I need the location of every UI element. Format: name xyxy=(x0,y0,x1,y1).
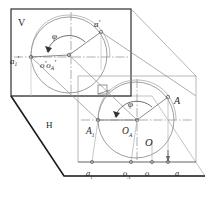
label-point-OA: OA xyxy=(122,126,133,138)
label-point-O: O xyxy=(145,137,153,148)
ray-o-prime-to-O xyxy=(69,55,137,120)
v-phi-arrowhead xyxy=(45,46,52,53)
label-ground-a1: a1 xyxy=(86,168,93,180)
label-point-A1: A1 xyxy=(85,126,95,138)
ray-frame-corner xyxy=(131,9,196,76)
label-ground-o: o xyxy=(145,168,149,178)
h-phi-label: φ xyxy=(128,99,133,109)
h-phi-arc xyxy=(115,101,152,117)
geometry-diagram: V H φ φ a′ a1′ o′oA′ A A1 OA O a1 oA o a xyxy=(0,0,213,199)
label-point-A: A xyxy=(173,95,181,106)
label-a-prime: a′ xyxy=(94,19,101,29)
h-plane-outline xyxy=(11,96,205,176)
v-phi-label: φ xyxy=(52,31,57,41)
h-plane-dark-edge xyxy=(11,96,205,176)
label-ground-a: a xyxy=(175,168,179,178)
figure-canvas: V H φ φ a′ a1′ o′oA′ A A1 OA O a1 oA o a xyxy=(0,0,213,199)
h-radius-to-A xyxy=(137,97,168,120)
h-plane-label: H xyxy=(46,120,53,130)
projector-A1 xyxy=(92,120,98,162)
label-ground-oA: oA xyxy=(123,168,131,180)
projector-OA xyxy=(131,120,137,162)
h-phi-arrowhead xyxy=(113,111,120,118)
label-o-prime-oA-prime: o′oA′ xyxy=(40,59,56,71)
v-plane-label: V xyxy=(18,17,26,28)
